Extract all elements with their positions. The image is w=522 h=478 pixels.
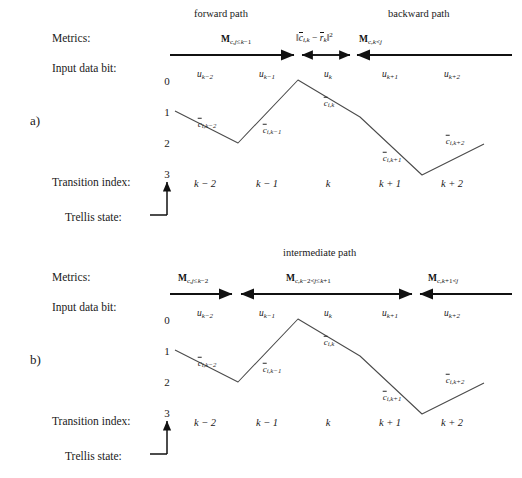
panel-b: b) intermediate path Metrics: Input data…	[0, 239, 522, 478]
panel-a-trellis-path-layer	[0, 0, 522, 239]
panel-b-transition-1: k − 1	[256, 417, 278, 428]
panel-b-transition-2: k	[326, 417, 331, 428]
panel-b-codeword-4: ci,k+2	[446, 375, 465, 385]
panel-b-codeword-2: ci,k	[324, 337, 335, 347]
panel-b-codeword-0: ci,k−2	[198, 358, 217, 368]
panel-a-codeword-1: ci,k−1	[263, 125, 282, 135]
panel-a: a) forward path backward path Metrics: I…	[0, 0, 522, 239]
panel-a-trellis-path	[175, 80, 484, 175]
panel-a-codeword-2: ci,k	[324, 98, 335, 108]
panel-b-codeword-3: ci,k+1	[383, 392, 402, 402]
panel-b-transition-4: k + 2	[441, 417, 463, 428]
panel-a-codeword-3: ci,k+1	[383, 153, 402, 163]
panel-b-transition-0: k − 2	[194, 417, 216, 428]
panel-b-trellis-path	[175, 319, 484, 414]
panel-a-transition-3: k + 1	[379, 178, 401, 189]
panel-b-trellis-path-layer	[0, 239, 522, 478]
panel-a-codeword-0: ci,k−2	[198, 119, 217, 129]
panel-a-transition-4: k + 2	[441, 178, 463, 189]
panel-b-codeword-1: ci,k−1	[263, 364, 282, 374]
panel-b-transition-3: k + 1	[379, 417, 401, 428]
panel-a-transition-1: k − 1	[256, 178, 278, 189]
panel-a-codeword-4: ci,k+2	[446, 136, 465, 146]
panel-a-transition-0: k − 2	[194, 178, 216, 189]
panel-a-transition-2: k	[326, 178, 331, 189]
